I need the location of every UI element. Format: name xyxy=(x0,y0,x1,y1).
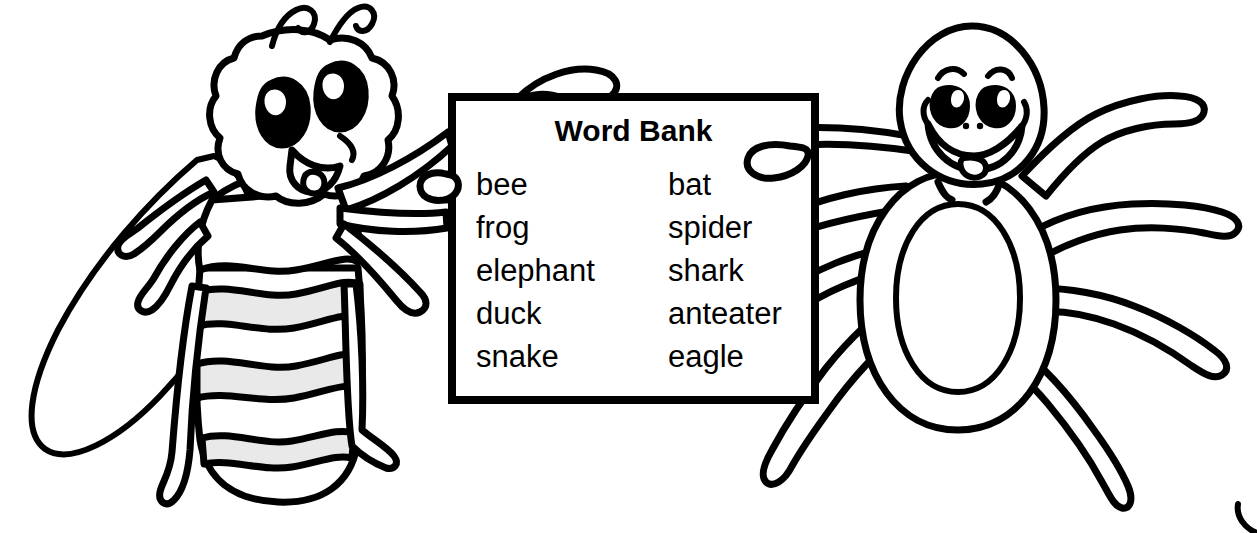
bee-hand-on-sign xyxy=(420,173,458,201)
bee-tongue xyxy=(303,172,324,194)
coloring-page-canvas: Word Bank bee frog elephant duck snake b… xyxy=(0,0,1257,533)
spider-leg-right-3 xyxy=(1036,288,1227,377)
spider-tongue xyxy=(961,157,986,177)
spider-nostril-left xyxy=(963,123,969,129)
bee-character xyxy=(32,7,471,504)
spider-nostril-right xyxy=(977,123,983,129)
bee-leg-right-lower xyxy=(344,284,396,468)
illustration xyxy=(0,0,1257,533)
spider-body-marking xyxy=(896,204,1020,392)
word-bank-sign xyxy=(452,97,815,400)
spider-leg-right-1 xyxy=(1022,96,1204,196)
spider-leg-right-2 xyxy=(1032,203,1239,258)
bee-arm-lower xyxy=(340,208,447,231)
bee-eye-left xyxy=(258,79,308,146)
cropped-corner-curve xyxy=(1238,504,1257,533)
bee-thorax xyxy=(198,190,359,271)
bee-eye-right xyxy=(316,63,366,130)
